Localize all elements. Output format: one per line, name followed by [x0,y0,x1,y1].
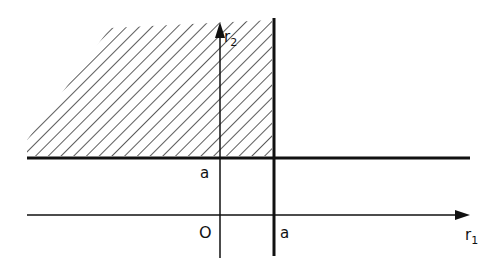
r1-a-tick-label: a [280,224,289,242]
diagram-svg: r2 r1 a O a [0,0,492,270]
hatched-region [0,0,272,156]
r1-axis-label: r1 [465,226,478,247]
diagram-canvas: r2 r1 a O a [0,0,492,270]
origin-label: O [199,223,212,242]
r2-a-tick-label: a [200,164,209,182]
r1-axis-arrow-icon [455,210,470,220]
